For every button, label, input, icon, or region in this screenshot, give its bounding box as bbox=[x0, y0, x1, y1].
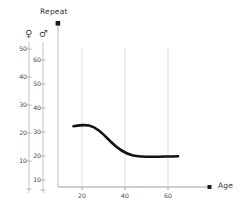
data-curve bbox=[74, 125, 179, 157]
x-tick-label: 20 bbox=[74, 193, 90, 199]
female-tick-label: 40 bbox=[14, 74, 27, 80]
male-tick-label: 60 bbox=[28, 57, 41, 63]
chart-figure: Repeat Age ♀ ♂ 50 40 30 20 10 60 50 40 3… bbox=[0, 0, 240, 211]
male-tick-label: 10 bbox=[28, 177, 41, 183]
male-tick-label: 30 bbox=[28, 129, 41, 135]
male-axis bbox=[41, 42, 46, 193]
male-tick-label: 50 bbox=[28, 81, 41, 87]
male-symbol-icon: ♂ bbox=[39, 29, 48, 39]
female-symbol-icon: ♀ bbox=[25, 29, 32, 39]
female-tick-label: 50 bbox=[14, 46, 27, 52]
gridlines bbox=[82, 48, 168, 186]
female-axis bbox=[27, 42, 32, 193]
x-tick-label: 40 bbox=[117, 193, 133, 199]
page-title: Repeat bbox=[40, 7, 68, 16]
female-tick-label: 10 bbox=[14, 158, 27, 164]
main-y-axis bbox=[56, 21, 61, 187]
main-x-axis bbox=[58, 185, 212, 190]
male-tick-label: 40 bbox=[28, 105, 41, 111]
x-tick-label: 60 bbox=[160, 193, 176, 199]
female-tick-label: 20 bbox=[14, 130, 27, 136]
x-axis-label: Age bbox=[218, 181, 233, 190]
female-tick-label: 30 bbox=[14, 102, 27, 108]
male-tick-label: 20 bbox=[28, 153, 41, 159]
